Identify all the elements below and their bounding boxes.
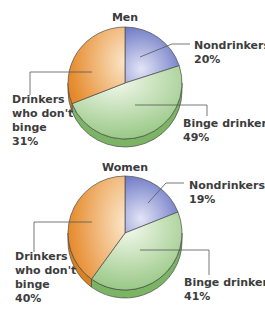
- nondrinkers-label: Nondrinkers20%: [194, 39, 265, 66]
- binge-drinkers-label: Binge drinkers49%: [183, 117, 265, 144]
- binge-drinkers-label: Binge drinkers41%: [184, 276, 265, 303]
- pie-charts-figure: MenNondrinkers20%Binge drinkers49%Drinke…: [0, 0, 265, 318]
- nondrinkers-label: Nondrinkers19%: [189, 179, 265, 206]
- chart-title: Women: [102, 161, 148, 174]
- men-pie-chart: MenNondrinkers20%Binge drinkers49%Drinke…: [12, 11, 265, 148]
- drinkers-who-dont-binge-label: Drinkerswho don'tbinge40%: [15, 250, 76, 305]
- chart-title: Men: [112, 11, 138, 24]
- women-pie-chart: WomenNondrinkers19%Binge drinkers41%Drin…: [15, 161, 265, 305]
- drinkers-who-dont-binge-label: Drinkerswho don'tbinge31%: [12, 93, 73, 148]
